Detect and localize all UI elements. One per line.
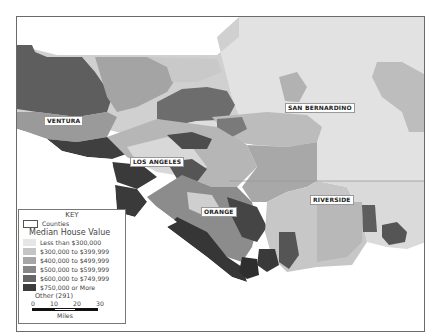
legend-class-row: $500,000 to $599,999 bbox=[19, 265, 125, 274]
legend-swatch-1 bbox=[23, 248, 36, 255]
map-legend: KEY Counties Median House Value Less tha… bbox=[18, 209, 126, 324]
scale-segment-1 bbox=[32, 308, 54, 311]
scale-bar: 0 10 20 30 Miles bbox=[31, 300, 125, 322]
legend-key-title: KEY bbox=[19, 211, 125, 219]
region-palm-springs bbox=[362, 205, 377, 232]
legend-class-row: $300,000 to $399,999 bbox=[19, 247, 125, 256]
legend-counties-label: Counties bbox=[42, 219, 69, 228]
county-label-riverside: RIVERSIDE bbox=[310, 195, 354, 205]
map-frame: VENTURA LOS ANGELES ORANGE SAN BERNARDIN… bbox=[16, 16, 425, 332]
legend-class-label: $500,000 to $599,999 bbox=[40, 265, 109, 274]
legend-swatch-3 bbox=[23, 266, 36, 273]
legend-class-label: Less than $300,000 bbox=[40, 238, 101, 247]
scale-segment-2 bbox=[54, 308, 76, 311]
legend-other-label: Other (291) bbox=[19, 292, 125, 300]
legend-class-label: $300,000 to $399,999 bbox=[40, 247, 109, 256]
scale-tick-20: 20 bbox=[73, 300, 81, 307]
legend-counties-row: Counties bbox=[19, 219, 125, 228]
county-label-orange: ORANGE bbox=[201, 207, 237, 217]
legend-class-label: $400,000 to $499,999 bbox=[40, 256, 109, 265]
legend-class-row: Less than $300,000 bbox=[19, 238, 125, 247]
scale-tick-0: 0 bbox=[31, 300, 35, 307]
legend-class-label: $750,000 or More bbox=[40, 283, 95, 292]
legend-swatch-0 bbox=[23, 239, 36, 246]
county-label-ventura: VENTURA bbox=[44, 116, 83, 126]
legend-swatch-5 bbox=[23, 284, 36, 291]
legend-class-row: $750,000 or More bbox=[19, 283, 125, 292]
scale-tick-30: 30 bbox=[96, 300, 104, 307]
legend-swatch-2 bbox=[23, 257, 36, 264]
legend-swatch-4 bbox=[23, 275, 36, 282]
county-label-san-bernardino: SAN BERNARDINO bbox=[285, 103, 355, 113]
legend-heading: Median House Value bbox=[19, 228, 125, 238]
scale-tick-10: 10 bbox=[50, 300, 58, 307]
legend-class-row: $600,000 to $749,999 bbox=[19, 274, 125, 283]
scale-segment-3 bbox=[76, 308, 98, 311]
legend-class-row: $400,000 to $499,999 bbox=[19, 256, 125, 265]
legend-class-label: $600,000 to $749,999 bbox=[40, 274, 109, 283]
scale-units: Miles bbox=[31, 312, 99, 319]
county-label-los-angeles: LOS ANGELES bbox=[130, 157, 184, 167]
county-outline-swatch bbox=[23, 220, 38, 228]
